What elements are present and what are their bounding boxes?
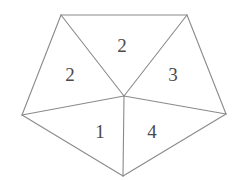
outer-edge-bottom-right [123, 114, 226, 176]
pentagon-triangulation-svg [0, 0, 239, 180]
region-label-left: 2 [65, 65, 75, 84]
region-label-bottom-right: 4 [147, 122, 157, 141]
spoke-to-left [22, 96, 124, 115]
outer-edge-bottom-left [22, 115, 123, 176]
region-label-bottom-left: 1 [95, 122, 105, 141]
spoke-to-bottom [123, 96, 124, 176]
spoke-to-right [124, 96, 226, 114]
outer-edge-top-right [187, 15, 226, 114]
region-label-top: 2 [117, 36, 127, 55]
pentagon-diagram: 2 2 3 1 4 [0, 0, 239, 180]
region-label-right: 3 [168, 65, 178, 84]
outer-edge-top-left [22, 15, 61, 115]
